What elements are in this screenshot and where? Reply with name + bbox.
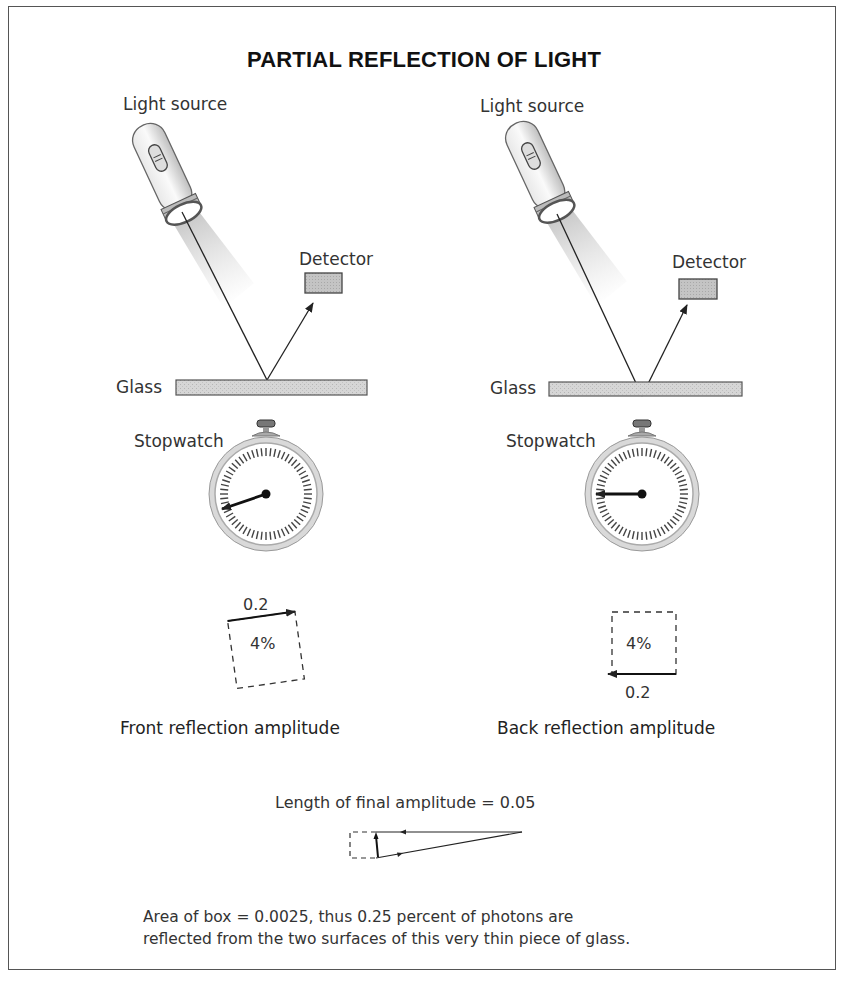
back-caption: Back reflection amplitude [497, 718, 715, 738]
stopwatch-label: Stopwatch [506, 431, 596, 451]
detector-icon [679, 279, 717, 299]
back-probability: 4% [626, 634, 651, 653]
glass-plate [176, 380, 367, 395]
front-amplitude-value: 0.2 [243, 595, 268, 614]
incident-ray [557, 214, 642, 396]
detector-icon [305, 273, 342, 293]
note-line-1: Area of box = 0.0025, thus 0.25 percent … [143, 906, 630, 928]
note-line-2: reflected from the two surfaces of this … [143, 928, 630, 950]
light-source-label: Light source [123, 94, 227, 114]
glass-label: Glass [116, 377, 162, 397]
back-amplitude-value: 0.2 [625, 683, 650, 702]
diagram-canvas [0, 0, 848, 982]
stopwatch-icon [585, 420, 699, 551]
light-source-label: Light source [480, 96, 584, 116]
front-caption: Front reflection amplitude [120, 718, 340, 738]
detector-label: Detector [672, 252, 746, 272]
glass-label: Glass [490, 378, 536, 398]
final-amplitude-label: Length of final amplitude = 0.05 [275, 793, 535, 812]
stopwatch-label: Stopwatch [134, 431, 224, 451]
incident-ray [182, 212, 267, 380]
flashlight-icon [126, 111, 259, 315]
explanation-note: Area of box = 0.0025, thus 0.25 percent … [143, 906, 630, 950]
glass-plate [549, 382, 742, 396]
detector-label: Detector [299, 249, 373, 269]
reflected-ray [267, 303, 313, 380]
stopwatch-icon [209, 420, 323, 551]
flashlight-icon [499, 109, 632, 313]
final-amplitude-diagram [350, 830, 522, 859]
front-probability: 4% [250, 634, 275, 653]
